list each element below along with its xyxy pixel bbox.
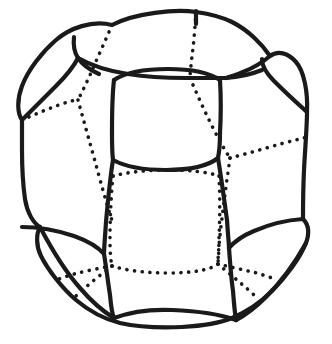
front-top-face-left xyxy=(112,80,114,160)
figure-canvas: Truncated octahedron line drawing Hand-d… xyxy=(0,0,332,344)
polyhedron-drawing: Truncated octahedron line drawing Hand-d… xyxy=(0,0,332,344)
